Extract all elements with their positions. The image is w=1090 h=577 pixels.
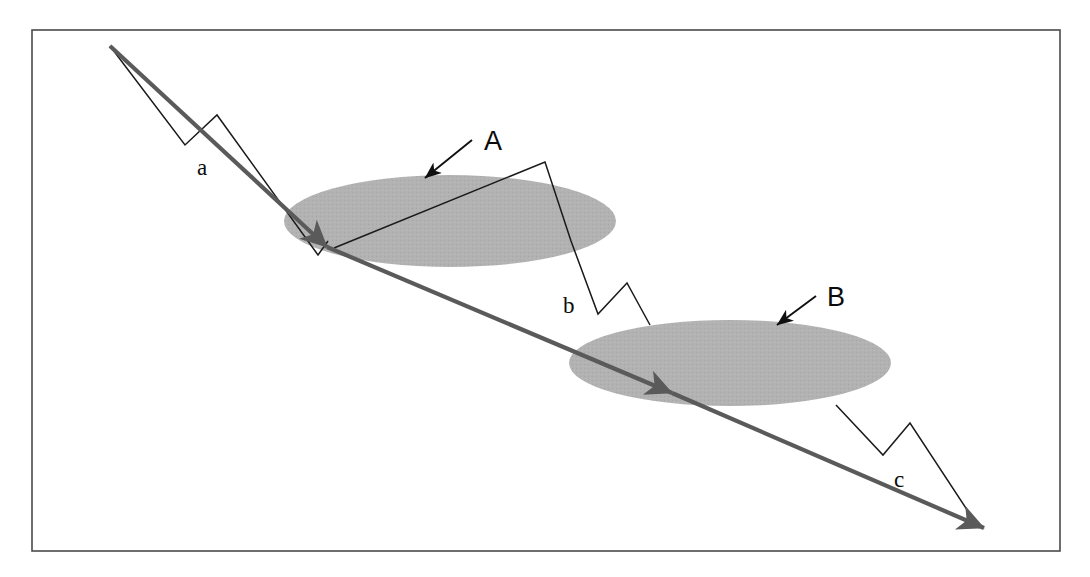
zigzag-c: [836, 405, 979, 528]
segment-label-b: b: [563, 293, 575, 318]
zigzag-group: [110, 46, 979, 528]
plane-ellipse-A: [284, 175, 616, 267]
ray-segment-b: [327, 247, 672, 393]
ray-segment-a: [110, 46, 327, 247]
plane-label-A: A: [484, 126, 502, 156]
segment-label-a: a: [197, 155, 207, 180]
plane-ellipse-B: [569, 320, 891, 406]
diagram-canvas: A B a b c: [0, 0, 1090, 577]
plane-label-B: B: [827, 282, 845, 312]
figure-border: [32, 30, 1060, 551]
ray-segment-c: [672, 393, 984, 528]
segment-label-c: c: [894, 467, 904, 492]
pointer-arrow-b: [777, 296, 816, 325]
ray-group: [110, 46, 984, 528]
figure-svg: A B a b c: [0, 0, 1090, 577]
pointer-arrow-a: [425, 140, 472, 178]
plane-group: [284, 175, 891, 406]
